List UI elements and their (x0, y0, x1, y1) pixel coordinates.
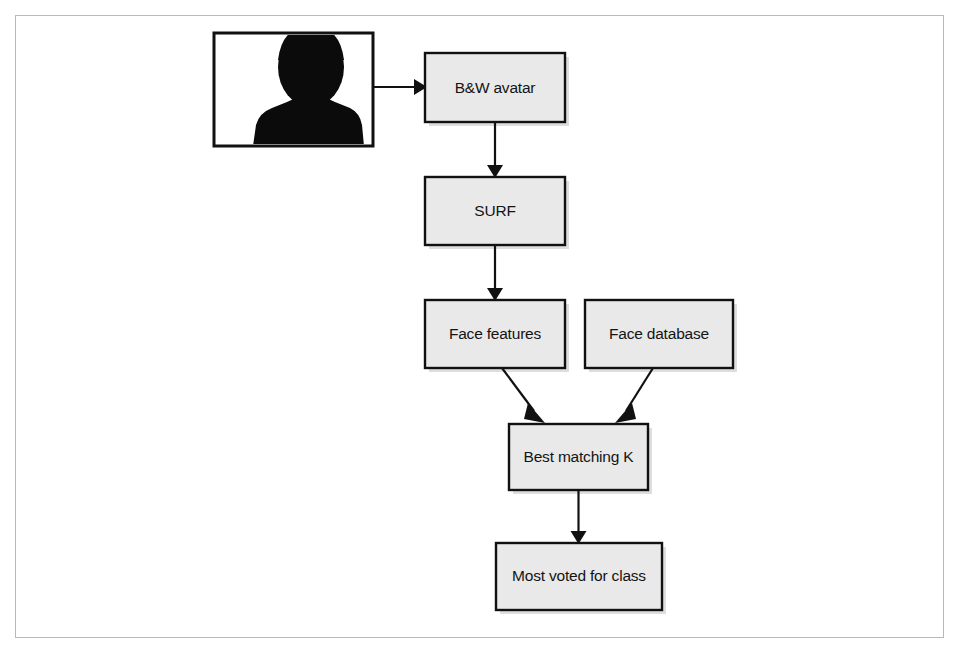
node-bw-avatar-label: B&W avatar (455, 79, 536, 96)
node-bw-avatar[interactable]: B&W avatar (425, 53, 569, 126)
node-face-database-label: Face database (609, 325, 709, 342)
node-surf[interactable]: SURF (425, 177, 569, 249)
edge-database-to-match-arrowhead (615, 403, 636, 423)
edge-face-database-to-best-matching (615, 368, 653, 423)
node-most-voted-label: Most voted for class (512, 567, 646, 584)
node-most-voted-for-class[interactable]: Most voted for class (496, 543, 666, 614)
edge-database-to-match-line (626, 368, 653, 411)
node-face-database[interactable]: Face database (585, 300, 737, 372)
edge-face-features-to-best-matching (502, 368, 545, 423)
node-face-features[interactable]: Face features (425, 300, 569, 372)
figure-root: B&W avatar SURF Face features Fa (0, 0, 961, 655)
node-face-features-label: Face features (449, 325, 542, 342)
edge-bw-avatar-to-surf (487, 122, 503, 178)
node-surf-label: SURF (474, 202, 515, 219)
edge-best-matching-to-most-voted (571, 490, 587, 544)
edge-surf-to-face-features (487, 245, 503, 301)
silhouette-crown (278, 26, 344, 60)
node-input-photo (214, 26, 373, 146)
node-best-matching-k-label: Best matching K (524, 448, 635, 465)
edge-photo-to-bw-avatar (373, 79, 427, 95)
node-best-matching-k[interactable]: Best matching K (509, 424, 652, 494)
edge-features-to-match-arrowhead (524, 403, 545, 423)
flowchart-canvas: B&W avatar SURF Face features Fa (0, 0, 961, 655)
